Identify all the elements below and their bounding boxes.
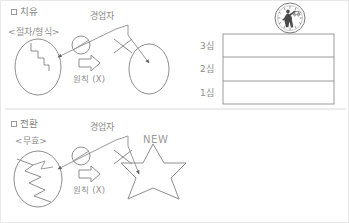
cure-hollow-arrow-icon xyxy=(79,55,100,71)
conversion-block-x-icon xyxy=(114,150,132,164)
court-table-outer-border xyxy=(223,34,334,104)
conversion-lightning-crack-icon xyxy=(17,159,51,202)
conversion-actor-to-target-line xyxy=(128,146,139,174)
cure-actor-to-source-line xyxy=(58,29,116,57)
conversion-actor-to-source-line xyxy=(58,140,116,169)
cure-step-crack-icon xyxy=(31,43,49,71)
conversion-prohibition-slash-icon xyxy=(73,151,89,161)
court-instance-table xyxy=(223,34,334,104)
diagram-vector-layer xyxy=(1,1,349,223)
cure-prohibition-slash-icon xyxy=(73,40,89,50)
conversion-lightning-crack-secondary-icon xyxy=(33,161,53,169)
court-seal-emblem xyxy=(275,3,305,33)
cure-block-x-icon xyxy=(114,39,132,53)
cure-actor-bracket-line xyxy=(116,25,128,35)
cure-source-ellipse xyxy=(15,39,61,95)
cure-target-ellipse xyxy=(129,44,169,94)
conversion-hollow-arrow-icon xyxy=(79,166,100,182)
diagram-page: 치유 <절차/형식> 경업자 원칙 (X) 전환 <무효> 경업자 원칙 (X)… xyxy=(0,0,349,223)
conversion-actor-bracket-line xyxy=(116,136,128,146)
